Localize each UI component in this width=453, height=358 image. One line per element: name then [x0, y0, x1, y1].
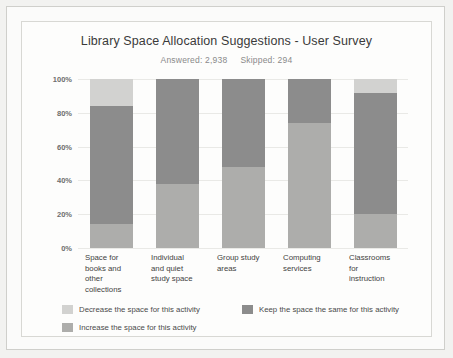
bar-segment[interactable] — [288, 79, 331, 123]
bar-segment[interactable] — [222, 167, 265, 248]
bar-slot — [78, 79, 144, 248]
y-axis-tick-label: 60% — [57, 142, 72, 151]
chart-outer-frame: Library Space Allocation Suggestions - U… — [6, 6, 445, 350]
x-axis-labels: Space forbooks andothercollectionsIndivi… — [78, 253, 408, 295]
x-axis-category-label: Group studyareas — [217, 253, 269, 295]
legend-label: Increase the space for this activity — [79, 323, 196, 332]
chart-legend: Decrease the space for this activityKeep… — [62, 305, 412, 341]
legend-item[interactable]: Increase the space for this activity — [62, 323, 242, 332]
stacked-bar[interactable] — [354, 79, 397, 248]
bar-segment[interactable] — [354, 93, 397, 215]
stacked-bar[interactable] — [156, 79, 199, 248]
bar-segment[interactable] — [90, 79, 133, 106]
y-axis-tick-label: 20% — [57, 210, 72, 219]
stacked-bar[interactable] — [90, 79, 133, 248]
legend-row: Increase the space for this activity — [62, 323, 412, 332]
y-axis-tick-label: 0% — [61, 244, 72, 253]
legend-row: Decrease the space for this activityKeep… — [62, 305, 412, 314]
plot-area: 0%20%40%60%80%100% Space forbooks andoth… — [22, 22, 433, 338]
bar-segment[interactable] — [156, 79, 199, 184]
bar-segment[interactable] — [288, 123, 331, 248]
x-label-slot: Classroomsforinstruction — [342, 253, 408, 295]
bar-slot — [210, 79, 276, 248]
x-axis-category-label: Classroomsforinstruction — [349, 253, 401, 295]
legend-item[interactable]: Decrease the space for this activity — [62, 305, 242, 314]
bar-slot — [144, 79, 210, 248]
legend-label: Decrease the space for this activity — [79, 305, 200, 314]
plot-canvas: 0%20%40%60%80%100% — [78, 79, 408, 248]
legend-item[interactable]: Keep the space the same for this activit… — [242, 305, 399, 314]
y-axis-tick-label: 80% — [57, 108, 72, 117]
bar-segment[interactable] — [222, 79, 265, 167]
legend-swatch-icon — [62, 323, 73, 332]
bar-segment[interactable] — [156, 184, 199, 248]
x-label-slot: Group studyareas — [210, 253, 276, 295]
bar-segment[interactable] — [90, 106, 133, 224]
stacked-bar[interactable] — [222, 79, 265, 248]
bar-segment[interactable] — [354, 79, 397, 93]
x-label-slot: Individualand quietstudy space — [144, 253, 210, 295]
bar-segment[interactable] — [90, 224, 133, 248]
bar-group — [78, 79, 408, 248]
bar-segment[interactable] — [354, 214, 397, 248]
x-axis-category-label: Space forbooks andothercollections — [85, 253, 137, 295]
x-label-slot: Computingservices — [276, 253, 342, 295]
x-axis-category-label: Individualand quietstudy space — [151, 253, 203, 295]
legend-swatch-icon — [242, 305, 253, 314]
stacked-bar[interactable] — [288, 79, 331, 248]
bar-slot — [276, 79, 342, 248]
chart-card: Library Space Allocation Suggestions - U… — [21, 21, 432, 337]
x-label-slot: Space forbooks andothercollections — [78, 253, 144, 295]
x-axis-category-label: Computingservices — [283, 253, 335, 295]
legend-swatch-icon — [62, 305, 73, 314]
bar-slot — [342, 79, 408, 248]
y-axis-tick-label: 40% — [57, 176, 72, 185]
gridline: 0% — [78, 248, 408, 249]
y-axis-tick-label: 100% — [53, 75, 72, 84]
legend-label: Keep the space the same for this activit… — [259, 305, 399, 314]
